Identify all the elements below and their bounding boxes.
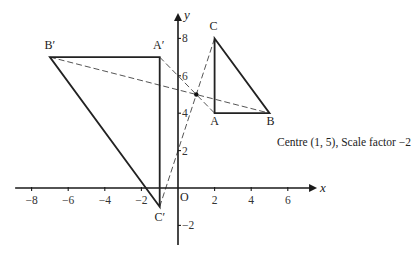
axes: [15, 13, 317, 245]
image-triangle: [50, 57, 160, 207]
vertex-label-a-prime: A′: [153, 38, 165, 52]
enlargement-diagram: −8−6−4−2246−22468xyOABCA′B′C′ Centre (1,…: [0, 0, 417, 255]
y-tick-label: 2: [182, 145, 188, 157]
y-tick-label: 4: [182, 107, 188, 119]
x-tick-label: −6: [62, 194, 74, 206]
y-tick-label: −2: [182, 219, 194, 231]
y-axis-label: y: [182, 7, 190, 22]
x-axis-label: x: [319, 180, 326, 195]
x-axis-arrow-icon: [309, 184, 317, 192]
triangles: [50, 38, 270, 206]
vertex-label-b-prime: B′: [45, 38, 56, 52]
construction-line: [160, 57, 215, 113]
vertex-label-c: C: [210, 19, 218, 33]
y-tick-label: 6: [182, 70, 188, 82]
y-axis-arrow-icon: [174, 13, 182, 21]
x-tick-label: 2: [212, 194, 218, 206]
x-tick-label: −2: [135, 194, 147, 206]
x-tick-label: 4: [248, 194, 254, 206]
vertex-label-c-prime: C′: [154, 210, 165, 224]
centre-of-enlargement-dot: [194, 92, 198, 96]
vertex-label-b: B: [266, 114, 274, 128]
x-tick-label: 6: [285, 194, 291, 206]
transformation-caption: Centre (1, 5), Scale factor −2: [277, 136, 411, 149]
object-triangle: [215, 38, 270, 113]
coordinate-plane: −8−6−4−2246−22468xyOABCA′B′C′ Centre (1,…: [0, 0, 417, 255]
x-tick-label: −4: [99, 194, 111, 206]
y-tick-label: 8: [182, 32, 188, 44]
x-tick-label: −8: [25, 194, 37, 206]
origin-label: O: [180, 190, 189, 204]
vertex-label-a: A: [210, 114, 219, 128]
labels: −8−6−4−2246−22468xyOABCA′B′C′: [25, 7, 326, 231]
construction-line: [160, 38, 215, 206]
